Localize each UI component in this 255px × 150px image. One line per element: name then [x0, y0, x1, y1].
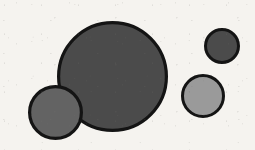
small-dark-circle: [206, 30, 239, 63]
medium-gray-circle: [30, 87, 82, 139]
circles-diagram: [0, 0, 255, 150]
figure-canvas: [0, 0, 255, 150]
light-gray-circle: [183, 76, 224, 117]
